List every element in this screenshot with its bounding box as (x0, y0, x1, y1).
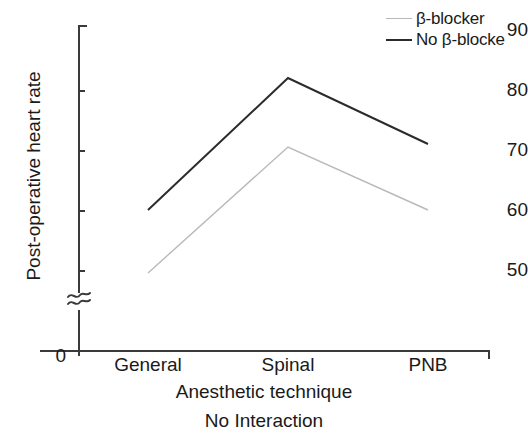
series-line-beta-blocker (148, 147, 428, 273)
data-series-layer (0, 0, 528, 434)
y-axis-title: Post-operative heart rate (23, 36, 45, 316)
figure-caption: No Interaction (0, 410, 528, 432)
plot-area: 90 80 70 60 50 0 General Spinal PNB (0, 0, 528, 434)
series-line-no-beta-blocker (148, 78, 428, 210)
interaction-plot-figure: β-blocker No β-blocke 90 80 70 60 50 0 (0, 0, 528, 434)
x-axis-title: Anesthetic technique (0, 381, 528, 403)
